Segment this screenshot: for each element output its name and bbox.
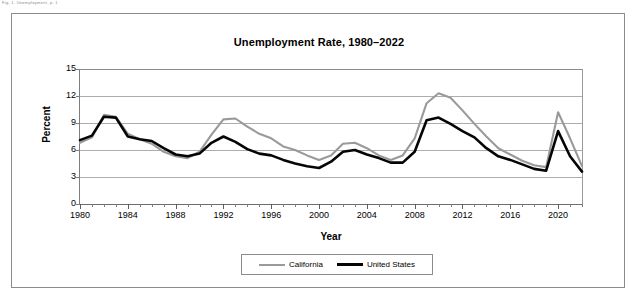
x-tick-2012	[462, 204, 463, 209]
x-tick-1985	[140, 204, 141, 207]
x-tick-1986	[152, 204, 153, 207]
chart-legend: California United States	[241, 254, 433, 275]
x-tick-2003	[355, 204, 356, 207]
figure-frame: Unemployment Rate, 1980–2022 Percent 036…	[11, 13, 625, 288]
x-tick-2006	[391, 204, 392, 207]
x-tick-2015	[498, 204, 499, 207]
x-tick-2021	[570, 204, 571, 207]
y-tick-label-12: 12	[36, 90, 76, 100]
x-tick-1989	[188, 204, 189, 207]
x-tick-2016	[510, 204, 511, 209]
x-tick-label-1984: 1984	[118, 210, 138, 220]
x-tick-1996	[271, 204, 272, 209]
plot-right-edge	[582, 69, 583, 205]
x-tick-1987	[164, 204, 165, 207]
legend-label-united-states: United States	[367, 260, 415, 269]
x-tick-label-1992: 1992	[213, 210, 233, 220]
line-swatch-black-icon	[337, 263, 363, 266]
y-tick-label-6: 6	[36, 144, 76, 154]
x-tick-label-1996: 1996	[261, 210, 281, 220]
x-tick-label-2004: 2004	[357, 210, 377, 220]
x-tick-2009	[427, 204, 428, 207]
x-tick-2005	[379, 204, 380, 207]
x-tick-2019	[546, 204, 547, 207]
x-tick-label-1988: 1988	[166, 210, 186, 220]
x-tick-1983	[116, 204, 117, 207]
chart-title: Unemployment Rate, 1980–2022	[12, 36, 626, 48]
x-tick-1981	[92, 204, 93, 207]
x-tick-1984	[128, 204, 129, 209]
x-tick-label-2012: 2012	[452, 210, 472, 220]
x-tick-1998	[295, 204, 296, 207]
x-tick-1995	[259, 204, 260, 207]
line-swatch-gray-icon	[259, 264, 285, 266]
legend-label-california: California	[289, 260, 323, 269]
y-tick-label-0: 0	[36, 198, 76, 208]
x-tick-2008	[415, 204, 416, 209]
x-tick-1988	[176, 204, 177, 209]
y-tick-label-9: 9	[36, 117, 76, 127]
x-tick-2001	[331, 204, 332, 207]
page-header-stray-text: Fig. 1. Unemployment, p. 1	[2, 0, 58, 5]
x-tick-2004	[367, 204, 368, 209]
y-tick-label-3: 3	[36, 171, 76, 181]
x-tick-1992	[223, 204, 224, 209]
x-tick-label-2016: 2016	[500, 210, 520, 220]
x-tick-2018	[534, 204, 535, 207]
x-tick-2002	[343, 204, 344, 207]
series-line-california	[80, 93, 582, 167]
x-tick-1994	[247, 204, 248, 207]
x-tick-2007	[403, 204, 404, 207]
x-tick-label-2008: 2008	[405, 210, 425, 220]
legend-item-california[interactable]: California	[259, 260, 323, 269]
x-tick-1980	[80, 204, 81, 209]
x-tick-2022	[582, 204, 583, 207]
x-tick-1990	[200, 204, 201, 207]
x-tick-2013	[474, 204, 475, 207]
x-tick-label-1980: 1980	[70, 210, 90, 220]
x-tick-label-2000: 2000	[309, 210, 329, 220]
series-layer	[80, 69, 582, 204]
y-tick-label-15: 15	[36, 63, 76, 73]
x-tick-2020	[558, 204, 559, 209]
x-tick-2011	[451, 204, 452, 207]
x-tick-label-2020: 2020	[548, 210, 568, 220]
x-tick-1982	[104, 204, 105, 207]
x-tick-1997	[283, 204, 284, 207]
x-tick-2010	[439, 204, 440, 207]
series-line-united-states	[80, 117, 582, 172]
x-tick-1999	[307, 204, 308, 207]
x-tick-1993	[235, 204, 236, 207]
legend-item-united-states[interactable]: United States	[337, 260, 415, 269]
x-axis-title: Year	[80, 231, 582, 242]
x-tick-1991	[211, 204, 212, 207]
x-tick-2017	[522, 204, 523, 207]
x-tick-2014	[486, 204, 487, 207]
plot-area: Percent 03691215 19801984198819921996200…	[79, 69, 582, 204]
x-tick-2000	[319, 204, 320, 209]
